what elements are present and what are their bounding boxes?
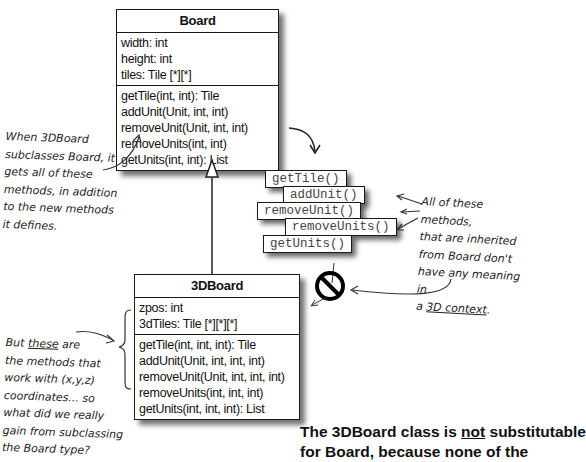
caption: The 3DBoard class is not substitutable f… (300, 422, 586, 462)
prohibited-icon (311, 263, 343, 306)
note-what-did-we-gain: But these are the methods that work with… (2, 334, 127, 461)
note-emphasis: 3D context (426, 300, 487, 316)
note-emphasis: these (28, 337, 59, 351)
caption-emphasis: not (461, 423, 485, 440)
note-line: All of these methods, (420, 193, 532, 234)
note-line: have any meaning in (417, 263, 529, 304)
note-text: are (58, 338, 80, 352)
caption-text: substitutable (485, 423, 586, 440)
caption-text: The 3DBoard class is (300, 423, 461, 440)
inheritance-arrow-icon (206, 160, 218, 274)
note-inherits-methods: When 3DBoard subclasses Board, it gets a… (2, 128, 119, 237)
note-text: But (5, 336, 28, 350)
note-no-meaning-in-3d: All of these methods, that are inherited… (416, 193, 532, 321)
note-text: . (486, 304, 490, 317)
caption-line: for Board, because none of the (300, 442, 586, 462)
note-arrow-icon (397, 194, 422, 230)
caption-line: The 3DBoard class is not substitutable (300, 422, 586, 442)
curved-arrow-icon (289, 128, 320, 153)
